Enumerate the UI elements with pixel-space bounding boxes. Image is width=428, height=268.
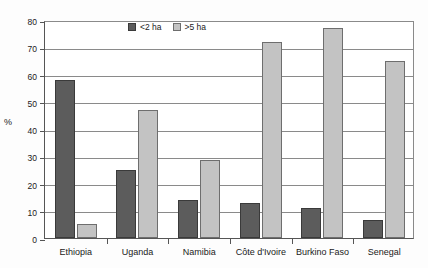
- chart-legend: <2 ha>5 ha: [128, 22, 206, 32]
- x-axis-category-label: Senegal: [368, 247, 401, 257]
- legend-item: <2 ha: [128, 22, 162, 32]
- bar: [301, 208, 321, 238]
- legend-label: <2 ha: [140, 22, 162, 32]
- x-axis-tick: [230, 238, 231, 244]
- x-axis-category-label: Côte d'Ivoire: [236, 247, 286, 257]
- plot-area: 01020304050607080EthiopiaUgandaNamibiaCô…: [44, 21, 414, 239]
- x-axis-category-label: Uganda: [122, 247, 154, 257]
- bar-group: [168, 22, 230, 238]
- legend-item: >5 ha: [173, 22, 207, 32]
- x-axis-category-label: Ethiopia: [60, 247, 93, 257]
- bar-group: [45, 22, 107, 238]
- bar-group: [292, 22, 354, 238]
- bar: [116, 170, 136, 238]
- bar: [55, 80, 75, 238]
- legend-swatch-icon: [128, 23, 136, 31]
- y-axis-tick-label: 70: [28, 44, 37, 54]
- bar: [138, 110, 158, 238]
- bar-group: [107, 22, 169, 238]
- x-axis-tick: [353, 238, 354, 244]
- y-axis-tick: [40, 240, 45, 241]
- x-axis-category-label: Namibia: [183, 247, 216, 257]
- bar-chart: % 01020304050607080EthiopiaUgandaNamibia…: [0, 0, 428, 268]
- y-axis-tick-label: 60: [28, 72, 37, 82]
- legend-label: >5 ha: [185, 22, 207, 32]
- y-axis-tick-label: 80: [28, 17, 37, 27]
- x-axis-category-label: Burkino Faso: [296, 247, 349, 257]
- bar: [178, 200, 198, 238]
- x-axis-tick: [292, 238, 293, 244]
- bar: [323, 28, 343, 238]
- y-axis-tick-label: 40: [28, 126, 37, 136]
- y-axis-tick-label: 30: [28, 153, 37, 163]
- bar: [77, 224, 97, 238]
- x-axis-tick: [107, 238, 108, 244]
- bar: [240, 203, 260, 238]
- y-axis-tick-label: 50: [28, 99, 37, 109]
- bar: [385, 61, 405, 238]
- x-axis-tick: [168, 238, 169, 244]
- y-axis-title: %: [4, 117, 12, 127]
- bar: [200, 160, 220, 238]
- y-axis-tick-label: 20: [28, 181, 37, 191]
- bar: [363, 220, 383, 238]
- bar-group: [353, 22, 415, 238]
- y-axis-tick-label: 0: [32, 235, 37, 245]
- bar-group: [230, 22, 292, 238]
- legend-swatch-icon: [173, 23, 181, 31]
- y-axis-tick-label: 10: [28, 208, 37, 218]
- bar: [262, 42, 282, 238]
